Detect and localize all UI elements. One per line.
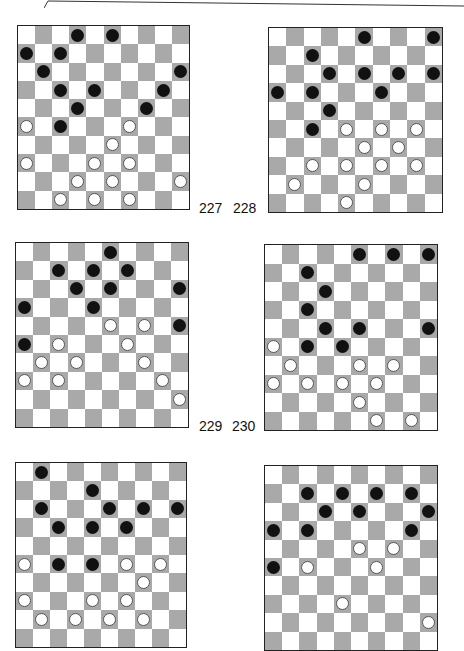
light-square [104, 44, 121, 62]
draughts-board-228 [268, 27, 443, 213]
black-piece-icon [88, 84, 101, 97]
black-piece-icon [319, 322, 332, 335]
diagram-number-227: 227 [199, 200, 222, 216]
light-square [282, 338, 299, 357]
dark-square [155, 191, 172, 209]
black-piece-icon [353, 322, 366, 335]
dark-square [152, 592, 169, 610]
white-piece-icon [301, 561, 314, 574]
light-square [282, 484, 299, 502]
dark-square [338, 83, 355, 101]
dark-square [67, 537, 84, 555]
dark-square [351, 466, 368, 484]
light-square [121, 26, 138, 44]
light-square [33, 592, 50, 610]
dark-square [368, 375, 385, 394]
light-square [152, 500, 169, 518]
light-square [351, 338, 368, 357]
dark-square [334, 412, 351, 431]
light-square [35, 117, 52, 135]
dark-square [269, 120, 286, 138]
light-square [304, 102, 321, 120]
light-square [425, 120, 442, 138]
dark-square [136, 280, 153, 298]
black-piece-icon [370, 487, 383, 500]
light-square [351, 595, 368, 613]
light-square [16, 353, 33, 371]
dark-square [368, 264, 385, 283]
light-square [136, 261, 153, 279]
dark-square [16, 481, 33, 499]
dark-square [304, 194, 321, 212]
black-piece-icon [358, 67, 371, 80]
light-square [351, 632, 368, 650]
light-square [135, 555, 152, 573]
light-square [135, 592, 152, 610]
dark-square [385, 540, 402, 558]
light-square [155, 63, 172, 81]
light-square [299, 393, 316, 412]
black-piece-icon [86, 521, 99, 534]
dark-square [390, 28, 407, 46]
dark-square [351, 503, 368, 521]
light-square [420, 412, 437, 431]
light-square [286, 157, 303, 175]
black-piece-icon [353, 248, 366, 261]
white-piece-icon [284, 359, 297, 372]
white-piece-icon [20, 157, 33, 170]
light-square [265, 393, 282, 412]
dark-square [265, 521, 282, 539]
light-square [85, 243, 102, 261]
light-square [420, 558, 437, 576]
dark-square [102, 390, 119, 408]
light-square [135, 518, 152, 536]
dark-square [102, 317, 119, 335]
dark-square [138, 172, 155, 190]
dark-square [265, 632, 282, 650]
black-piece-icon [405, 524, 418, 537]
dark-square [334, 375, 351, 394]
dark-square [135, 500, 152, 518]
light-square [385, 521, 402, 539]
light-square [119, 317, 136, 335]
light-square [86, 63, 103, 81]
white-piece-icon [353, 396, 366, 409]
dark-square [119, 298, 136, 316]
light-square [304, 175, 321, 193]
dark-square [265, 264, 282, 283]
light-square [368, 393, 385, 412]
light-square [118, 610, 135, 628]
dark-square [299, 558, 316, 576]
dark-square [33, 463, 50, 481]
dark-square [265, 595, 282, 613]
dark-square [420, 356, 437, 375]
black-piece-icon [120, 521, 133, 534]
light-square [368, 282, 385, 301]
dark-square [85, 372, 102, 390]
light-square [334, 282, 351, 301]
light-square [18, 172, 35, 190]
black-piece-icon [392, 67, 405, 80]
dark-square [334, 264, 351, 283]
light-square [136, 298, 153, 316]
light-square [50, 243, 67, 261]
light-square [265, 576, 282, 594]
dark-square [121, 191, 138, 209]
light-square [84, 463, 101, 481]
dark-square [33, 573, 50, 591]
light-square [101, 518, 118, 536]
white-piece-icon [340, 196, 353, 209]
dark-square [282, 356, 299, 375]
dark-square [425, 102, 442, 120]
black-piece-icon [137, 502, 150, 515]
dark-square [50, 518, 67, 536]
dark-square [420, 503, 437, 521]
dark-square [152, 518, 169, 536]
light-square [136, 335, 153, 353]
light-square [171, 261, 188, 279]
dark-square [368, 558, 385, 576]
dark-square [152, 481, 169, 499]
dark-square [407, 157, 424, 175]
white-piece-icon [336, 377, 349, 390]
dark-square [84, 592, 101, 610]
